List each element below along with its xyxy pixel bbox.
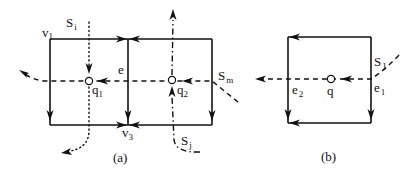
- label-s-j: Sj: [181, 133, 192, 150]
- arrow-up-icon: [170, 9, 177, 20]
- label-v1: v1: [42, 25, 53, 41]
- streamline-s-i-lower: [70, 87, 89, 151]
- arrow-left-icon: [61, 148, 72, 155]
- arrow-left-icon: [19, 70, 29, 78]
- label-e1: e1: [374, 80, 385, 97]
- label-q: q: [327, 83, 334, 98]
- panel-a: Si v1 e q1 q2 Sm v3 Sj (a): [19, 9, 238, 165]
- streamline-s-m-path: [24, 73, 238, 102]
- label-q2: q2: [177, 82, 188, 99]
- label-s-1: S1: [374, 54, 387, 71]
- label-s-i: Si: [66, 15, 77, 32]
- label-s-m: Sm: [218, 68, 233, 85]
- caption-b: (b): [321, 149, 336, 164]
- label-q1: q1: [92, 82, 103, 99]
- point-q: [327, 75, 334, 82]
- label-e: e: [118, 62, 124, 77]
- streamline-s-j-upper: [172, 20, 173, 75]
- panel-b: S1 e1 e2 q (b): [255, 34, 399, 165]
- figure-canvas: Si v1 e q1 q2 Sm v3 Sj (a) S1 e1: [0, 0, 416, 171]
- arrow-left-icon: [255, 76, 266, 83]
- point-q2: [168, 76, 175, 83]
- label-v3: v3: [122, 125, 134, 142]
- label-e2: e2: [292, 82, 303, 99]
- arrow-up-icon: [169, 86, 176, 97]
- streamline-s-i: [61, 22, 93, 155]
- caption-a: (a): [113, 150, 127, 165]
